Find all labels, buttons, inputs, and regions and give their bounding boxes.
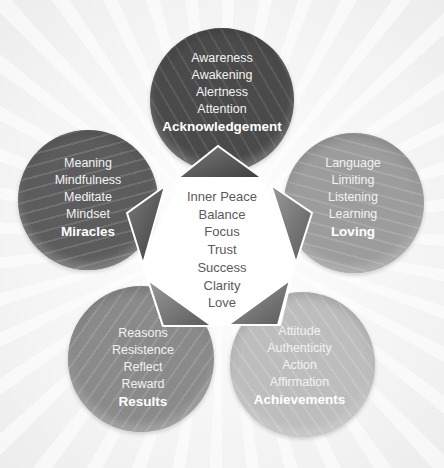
center-item: Inner Peace (160, 188, 284, 206)
center-item: Balance (160, 206, 284, 224)
pointer-up-icon (178, 146, 262, 178)
center-item: Success (160, 259, 284, 277)
diagram-stage: Awareness Awakening Alertness Attention … (0, 0, 444, 468)
center-item: Clarity (160, 277, 284, 295)
center-item: Love (160, 294, 284, 312)
center-item: Trust (160, 241, 284, 259)
center-item: Focus (160, 223, 284, 241)
center-text: Inner Peace Balance Focus Trust Success … (160, 188, 284, 312)
